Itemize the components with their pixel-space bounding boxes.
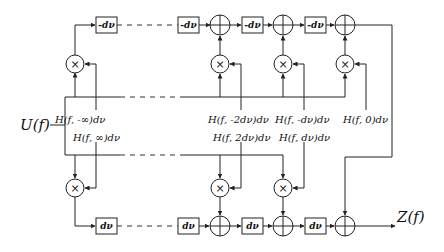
delay-label: -dν: [244, 20, 261, 30]
multiply-icon: ×: [278, 182, 287, 195]
output-label: Z(f): [396, 208, 425, 226]
delay-label: dν: [246, 221, 259, 231]
delay-label: dν: [182, 221, 195, 231]
multiply-icon: ×: [215, 58, 224, 71]
gain-label-bottom-1: H(f, ∞)dν: [72, 132, 120, 143]
gain-label-top-3: H(f, -dν)dν: [274, 114, 330, 125]
input-label: U(f): [20, 116, 50, 134]
delay-label: dν: [100, 221, 113, 231]
gain-label-top-2: H(f, -2dν)dν: [207, 114, 269, 125]
multiply-icon: ×: [70, 58, 79, 71]
delay-label: -dν: [307, 20, 324, 30]
block-diagram: × -dν -dν × -dν × -dν × × dν dν: [0, 0, 444, 252]
multiply-icon: ×: [70, 182, 79, 195]
gain-label-bottom-3: H(f, dν)dν: [278, 132, 330, 143]
gain-label-top-4: H(f, 0)dν: [342, 114, 388, 125]
gain-label-top-1: H(f, -∞)dν: [54, 114, 105, 125]
delay-label: dν: [309, 221, 322, 231]
multiply-icon: ×: [340, 58, 349, 71]
delay-label: -dν: [98, 20, 115, 30]
gain-label-bottom-2: H(f, 2dν)dν: [212, 132, 271, 143]
multiply-icon: ×: [215, 182, 224, 195]
delay-label: -dν: [180, 20, 197, 30]
multiply-icon: ×: [278, 58, 287, 71]
